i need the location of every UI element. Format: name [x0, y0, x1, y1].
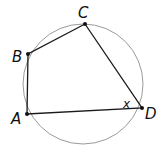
cyclic-quadrilateral-diagram: A B C D x [0, 0, 163, 153]
label-c: C [78, 4, 89, 22]
angle-x-label: x [122, 97, 131, 111]
point-d [140, 106, 144, 110]
point-a [25, 112, 29, 116]
label-d: D [145, 105, 157, 123]
label-a: A [10, 110, 21, 128]
point-b [26, 52, 30, 56]
point-c [83, 22, 87, 26]
label-b: B [12, 48, 22, 66]
